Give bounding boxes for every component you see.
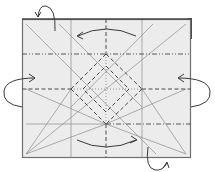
origami-diagram (0, 0, 215, 172)
